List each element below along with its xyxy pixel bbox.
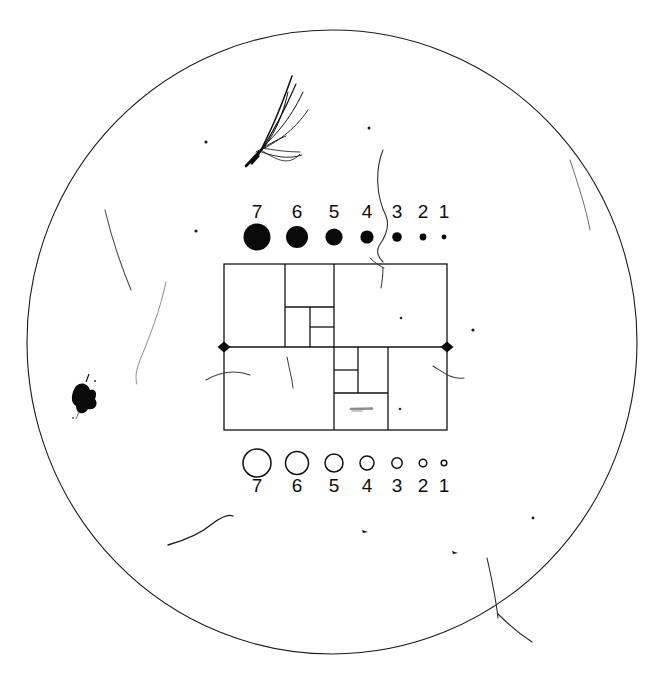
speck-left-of-dots: [194, 229, 197, 232]
speck-inner-rect: [399, 408, 402, 411]
filled-dot-1: [442, 235, 447, 240]
speck-upper-left: [204, 140, 207, 143]
filled-dot-label-7: 7: [252, 201, 263, 222]
speck-right-lower: [532, 517, 535, 520]
comparison-chart-plate: 7 6 5 4 3 2 1: [0, 0, 665, 692]
filled-dot-4: [360, 230, 373, 243]
open-circle-label-5: 5: [329, 475, 340, 496]
filled-dot-label-6: 6: [292, 201, 303, 222]
filled-dot-label-2: 2: [418, 201, 429, 222]
open-circle-label-4: 4: [362, 475, 373, 496]
plate-background: [0, 0, 665, 692]
open-circle-label-7: 7: [252, 475, 263, 496]
filled-dot-6: [286, 226, 308, 248]
open-circle-label-2: 2: [418, 475, 429, 496]
filled-dot-5: [325, 228, 342, 245]
speck-upper-right: [368, 127, 371, 130]
speck-inner-rect-upper: [400, 317, 403, 320]
open-circle-label-6: 6: [292, 475, 303, 496]
figure-root: 7 6 5 4 3 2 1: [0, 0, 665, 692]
filled-dot-3: [392, 232, 402, 242]
speck-mid-right: [471, 328, 474, 331]
open-circle-label-3: 3: [392, 475, 403, 496]
filled-dot-label-5: 5: [329, 201, 340, 222]
filled-dot-label-3: 3: [392, 201, 403, 222]
filled-dot-7: [244, 224, 271, 251]
filled-dot-label-4: 4: [362, 201, 373, 222]
filled-dot-2: [420, 234, 427, 241]
filled-dot-label-1: 1: [439, 201, 450, 222]
open-circle-label-1: 1: [439, 475, 450, 496]
